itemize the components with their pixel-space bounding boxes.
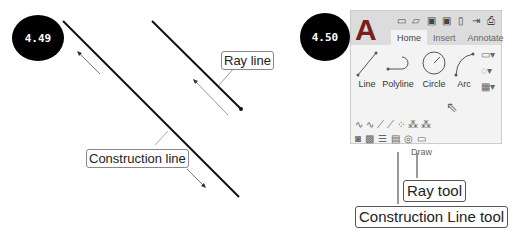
construction-line <box>63 21 239 197</box>
tool-label: Arc <box>457 79 471 89</box>
save-icon[interactable]: ▣ <box>425 15 437 27</box>
ray-tool-icon[interactable]: ⟋ <box>387 119 397 130</box>
ellipse-icon[interactable]: ◌▾ <box>481 65 492 76</box>
polyline-icon <box>383 49 413 79</box>
arc-icon <box>451 49 477 79</box>
spline-cv-icon[interactable]: ∿ <box>366 119 377 130</box>
print-icon[interactable]: ⎙ <box>485 15 497 27</box>
measure-icon[interactable]: ⁂ <box>421 119 434 130</box>
rectangle-icon[interactable]: ▭▾ <box>481 49 495 60</box>
divide-icon[interactable]: ⁂ <box>408 119 421 130</box>
callout-text: Construction Line tool <box>359 208 504 225</box>
callout-ray-tool: Ray tool <box>403 180 466 202</box>
tool-row-2: ◙▩☰▤◎▭ <box>355 133 430 144</box>
figure-badge-4-50: 4.50 <box>300 13 350 61</box>
spline-icon[interactable]: ∿ <box>355 119 366 130</box>
construction-line-tool-icon[interactable]: ⟋ <box>377 119 387 130</box>
line-icon <box>355 49 379 79</box>
ribbon-panel: A ▭ ▱ ▣ ▣ ▯ ⇥ ⎙ Home Insert Annotate Lin… <box>350 10 502 144</box>
panel-label-draw[interactable]: Draw <box>411 147 432 157</box>
import-icon[interactable]: ⇥ <box>470 15 482 27</box>
callout-construction-line: Construction line <box>86 149 189 168</box>
region-icon[interactable]: ◙ <box>355 133 365 144</box>
boundary-icon[interactable]: ▤ <box>391 133 404 144</box>
tab-annotate[interactable]: Annotate <box>462 30 510 46</box>
app-logo[interactable]: A <box>355 15 377 45</box>
tab-home[interactable]: Home <box>391 30 427 46</box>
quick-access-toolbar: ▭ ▱ ▣ ▣ ▯ ⇥ ⎙ <box>395 15 497 27</box>
tool-row-1: ∿∿⟋⟋⁘⁂⁂ <box>355 119 434 131</box>
callout-construction-line-tool: Construction Line tool <box>355 206 508 228</box>
circle-tool-button[interactable]: Circle <box>419 49 449 89</box>
tool-label: Circle <box>422 79 445 89</box>
callout-ray-line: Ray line <box>221 51 274 70</box>
polyline-tool-button[interactable]: Polyline <box>381 49 415 89</box>
callout-text: Construction line <box>89 151 186 166</box>
new-icon[interactable]: ▭ <box>395 15 407 27</box>
tab-insert[interactable]: Insert <box>427 30 462 46</box>
badge-text: 4.50 <box>312 31 339 44</box>
tool-label: Line <box>358 79 375 89</box>
save-as-icon[interactable]: ▣ <box>440 15 452 27</box>
plot-icon[interactable]: ▯ <box>455 15 467 27</box>
donut-icon[interactable]: ◎ <box>404 133 417 144</box>
circle-icon <box>420 49 448 79</box>
line-tool-button[interactable]: Line <box>354 49 380 89</box>
hatch-icon[interactable]: ▦▾ <box>481 81 495 92</box>
revcloud-icon[interactable]: ☰ <box>378 133 391 144</box>
point-icon[interactable]: ⁘ <box>397 119 408 130</box>
tool-label: Polyline <box>382 79 414 89</box>
rectangle-small-icon[interactable]: ▭ <box>417 133 430 144</box>
callout-text: Ray tool <box>407 182 462 199</box>
cursor-icon: ⇖ <box>446 99 458 115</box>
ribbon-tabs: Home Insert Annotate <box>391 30 510 46</box>
wipeout-icon[interactable]: ▩ <box>365 133 378 144</box>
callout-text: Ray line <box>224 53 271 68</box>
open-icon[interactable]: ▱ <box>410 15 422 27</box>
arc-tool-button[interactable]: Arc <box>451 49 477 89</box>
